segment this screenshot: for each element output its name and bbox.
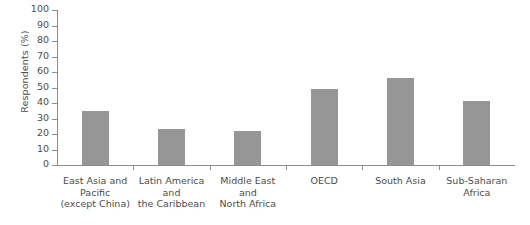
y-tick-label: 20: [37, 127, 49, 138]
x-tick-label-line: Pacific: [57, 187, 133, 199]
y-tick-mark: [52, 134, 57, 135]
y-tick-label: 90: [37, 19, 49, 30]
y-tick-mark: [52, 41, 57, 42]
x-tick-label: OECD: [286, 175, 362, 187]
x-tick-label: Sub-SaharanAfrica: [439, 175, 515, 198]
y-tick-mark: [52, 119, 57, 120]
bar-chart: Respondents (%) 1009080706050403020100 E…: [0, 0, 530, 225]
x-tick-mark: [439, 165, 440, 170]
x-tick-label-line: North Africa: [210, 198, 286, 210]
y-tick-mark: [52, 165, 57, 166]
y-axis-line: [57, 10, 58, 165]
x-tick-label: Latin Americaandthe Caribbean: [133, 175, 209, 210]
y-tick-mark: [52, 57, 57, 58]
y-tick-mark: [52, 26, 57, 27]
y-tick-mark: [52, 88, 57, 89]
x-tick-label-line: (except China): [57, 198, 133, 210]
y-tick-label: 0: [43, 158, 49, 169]
bar: [387, 78, 414, 165]
x-tick-label: Middle EastandNorth Africa: [210, 175, 286, 210]
y-tick-label: 40: [37, 96, 49, 107]
y-tick-label: 50: [37, 81, 49, 92]
x-tick-mark: [210, 165, 211, 170]
bar: [311, 89, 338, 165]
y-tick-label: 70: [37, 50, 49, 61]
x-tick-label-line: East Asia and: [57, 175, 133, 187]
x-tick-label: South Asia: [362, 175, 438, 187]
y-axis-title: Respondents (%): [19, 2, 30, 142]
y-tick-label: 60: [37, 65, 49, 76]
y-tick-mark: [52, 72, 57, 73]
x-tick-label-line: South Asia: [362, 175, 438, 187]
x-tick-label-line: the Caribbean: [133, 198, 209, 210]
bar: [234, 131, 261, 165]
y-tick-mark: [52, 150, 57, 151]
y-tick-mark: [52, 10, 57, 11]
x-tick-label-line: Latin America: [133, 175, 209, 187]
y-tick-mark: [52, 103, 57, 104]
bar: [158, 129, 185, 165]
x-tick-label-line: Africa: [439, 187, 515, 199]
x-tick-label-line: Middle East: [210, 175, 286, 187]
plot-area: 1009080706050403020100 East Asia andPaci…: [57, 10, 515, 165]
y-tick-label: 100: [31, 3, 49, 14]
x-tick-label: East Asia andPacific(except China): [57, 175, 133, 210]
y-tick-label: 80: [37, 34, 49, 45]
x-tick-label-line: Sub-Saharan: [439, 175, 515, 187]
y-tick-label: 10: [37, 143, 49, 154]
x-tick-mark: [133, 165, 134, 170]
x-tick-label-line: and: [210, 187, 286, 199]
y-tick-label: 30: [37, 112, 49, 123]
x-tick-label-line: and: [133, 187, 209, 199]
x-tick-label-line: OECD: [286, 175, 362, 187]
x-tick-mark: [286, 165, 287, 170]
bar: [463, 101, 490, 165]
x-tick-mark: [362, 165, 363, 170]
bar: [82, 111, 109, 165]
